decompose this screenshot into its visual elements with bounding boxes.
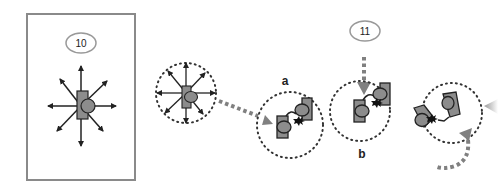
curved-dashed-arrow: [435, 140, 468, 168]
arrow-head-icon: [459, 128, 472, 141]
link-line: [438, 117, 449, 121]
diagram-canvas: 10: [0, 0, 498, 193]
stage-b: 11 b: [330, 21, 390, 161]
block-circle-1: [355, 105, 369, 117]
block-circle-1: [415, 114, 429, 127]
partial-arrow-icon: [484, 99, 498, 114]
block-circle: [185, 92, 198, 103]
stage-radiate: [156, 63, 216, 123]
link-line: [363, 95, 374, 100]
block-circle-1: [277, 121, 291, 133]
stage-a: a: [257, 74, 323, 158]
block-circle-2: [373, 88, 387, 100]
label-11: 11: [360, 26, 371, 37]
stage-rotation: [414, 83, 498, 168]
label-a: a: [282, 74, 289, 88]
dashed-arrow-shaft: [219, 101, 258, 116]
label-b: b: [358, 147, 365, 161]
label-10: 10: [75, 38, 87, 49]
block-circle-2: [442, 97, 454, 110]
arrow-head-icon: [357, 82, 371, 95]
arrow-head-icon: [262, 115, 273, 125]
block-circle: [81, 99, 95, 113]
panel-10: 10: [27, 14, 135, 180]
block-circle-2: [295, 104, 309, 116]
